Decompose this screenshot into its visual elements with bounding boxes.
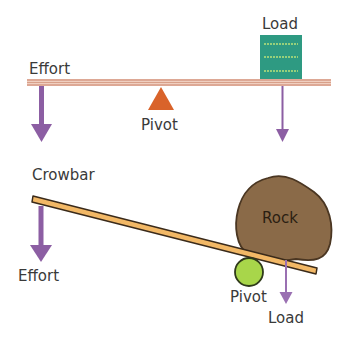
crowbar-load-label: Load [268,309,304,327]
pivot-circle [235,258,263,286]
crowbar-effort-arrow [30,206,52,262]
pivot-triangle [148,87,174,110]
seesaw-lever: Effort Pivot Load [27,15,331,142]
rock-label: Rock [262,209,298,227]
seesaw-effort-label: Effort [29,60,70,78]
load-arrow [276,86,289,142]
seesaw-beam [27,79,331,86]
crowbar-effort-label: Effort [18,267,59,285]
lever-diagram: Effort Pivot Load Crowbar Effort Rock Pi… [0,0,359,343]
seesaw-pivot-label: Pivot [141,116,178,134]
crowbar-label: Crowbar [32,166,95,184]
load-box [260,35,302,79]
seesaw-load-label: Load [262,15,298,33]
crowbar-lever: Crowbar Effort Rock Pivot Load [18,166,331,327]
crowbar-pivot-label: Pivot [230,288,267,306]
effort-arrow [31,86,52,142]
